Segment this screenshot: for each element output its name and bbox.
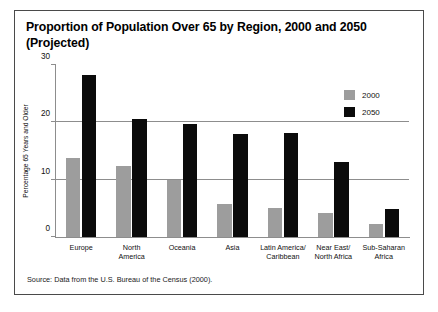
y-tick-label: 10 xyxy=(30,166,50,175)
legend-item-2000[interactable]: 2000 xyxy=(344,90,380,100)
y-tick-label: 20 xyxy=(30,109,50,118)
legend-swatch-2000 xyxy=(344,90,355,100)
bar-2050[interactable] xyxy=(82,75,97,237)
chart-legend: 20002050 xyxy=(344,90,380,124)
x-axis-category-line: Africa xyxy=(353,252,415,261)
bar-2000[interactable] xyxy=(167,180,182,237)
bar-group: Oceania xyxy=(157,65,207,237)
y-axis-title: Percentage 65 Years and Older xyxy=(22,104,29,197)
bar-group: Latin America/Caribbean xyxy=(258,65,308,237)
legend-label-2000: 2000 xyxy=(362,91,380,100)
bar-2000[interactable] xyxy=(66,158,81,237)
chart-title: Proportion of Population Over 65 by Regi… xyxy=(26,20,396,51)
legend-item-2050[interactable]: 2050 xyxy=(344,107,380,117)
bar-2050[interactable] xyxy=(334,162,349,237)
bar-2000[interactable] xyxy=(318,213,333,237)
legend-label-2050: 2050 xyxy=(362,108,380,117)
y-tick-label: 0 xyxy=(30,224,50,233)
source-note: Source: Data from the U.S. Bureau of the… xyxy=(27,275,212,284)
bar-2050[interactable] xyxy=(284,133,299,237)
chart-figure: Proportion of Population Over 65 by Regi… xyxy=(14,10,424,295)
bar-2050[interactable] xyxy=(233,134,248,237)
legend-swatch-2050 xyxy=(344,107,355,117)
bar-group: Europe xyxy=(56,65,106,237)
x-axis-category-line: Sub-Saharan xyxy=(353,243,415,252)
x-axis-line xyxy=(55,237,410,238)
y-tick-label: 30 xyxy=(30,52,50,61)
bar-group: NorthAmerica xyxy=(106,65,156,237)
bar-2050[interactable] xyxy=(385,209,400,237)
bar-2000[interactable] xyxy=(369,224,384,237)
x-axis-category-label: Sub-SaharanAfrica xyxy=(353,243,415,261)
bar-2050[interactable] xyxy=(132,119,147,237)
bar-2000[interactable] xyxy=(268,208,283,237)
bar-2000[interactable] xyxy=(116,166,131,237)
bar-2050[interactable] xyxy=(183,124,198,237)
bar-group: Asia xyxy=(207,65,257,237)
bar-2000[interactable] xyxy=(217,204,232,237)
x-axis-category-line: America xyxy=(101,252,163,261)
